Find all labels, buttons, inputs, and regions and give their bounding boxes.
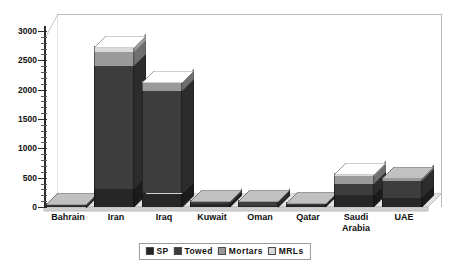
bar-segment-front bbox=[382, 198, 422, 207]
legend-item[interactable]: SP bbox=[145, 246, 168, 256]
legend-label: Towed bbox=[185, 246, 213, 256]
chart-3d-stacked-column: 050010001500200025003000 BahrainIranIraq… bbox=[0, 0, 449, 273]
legend-swatch-icon bbox=[268, 247, 276, 255]
x-axis-label: UAE bbox=[380, 212, 428, 223]
x-axis-label: Kuwait bbox=[188, 212, 236, 223]
x-axis-label: Oman bbox=[236, 212, 284, 223]
legend-item[interactable]: Mortars bbox=[218, 246, 263, 256]
legend-label: Mortars bbox=[229, 246, 263, 256]
x-axis-label: Bahrain bbox=[44, 212, 92, 223]
x-axis-label: Qatar bbox=[284, 212, 332, 223]
chart-legend: SPTowedMortarsMRLs bbox=[138, 243, 310, 260]
x-axis-label: Iraq bbox=[140, 212, 188, 223]
bar-top-face bbox=[382, 165, 434, 177]
x-axis-category-labels: BahrainIranIraqKuwaitOmanQatarSaudi Arab… bbox=[0, 209, 449, 243]
x-axis-label: Saudi Arabia bbox=[332, 212, 380, 234]
legend-swatch-icon bbox=[174, 247, 182, 255]
legend-item[interactable]: MRLs bbox=[268, 246, 304, 256]
legend-label: MRLs bbox=[279, 246, 304, 256]
legend-item[interactable]: Towed bbox=[174, 246, 213, 256]
legend-swatch-icon bbox=[145, 247, 153, 255]
x-axis-label: Iran bbox=[92, 212, 140, 223]
legend-swatch-icon bbox=[218, 247, 226, 255]
legend-label: SP bbox=[156, 246, 168, 256]
bar-segment-front bbox=[382, 181, 422, 198]
